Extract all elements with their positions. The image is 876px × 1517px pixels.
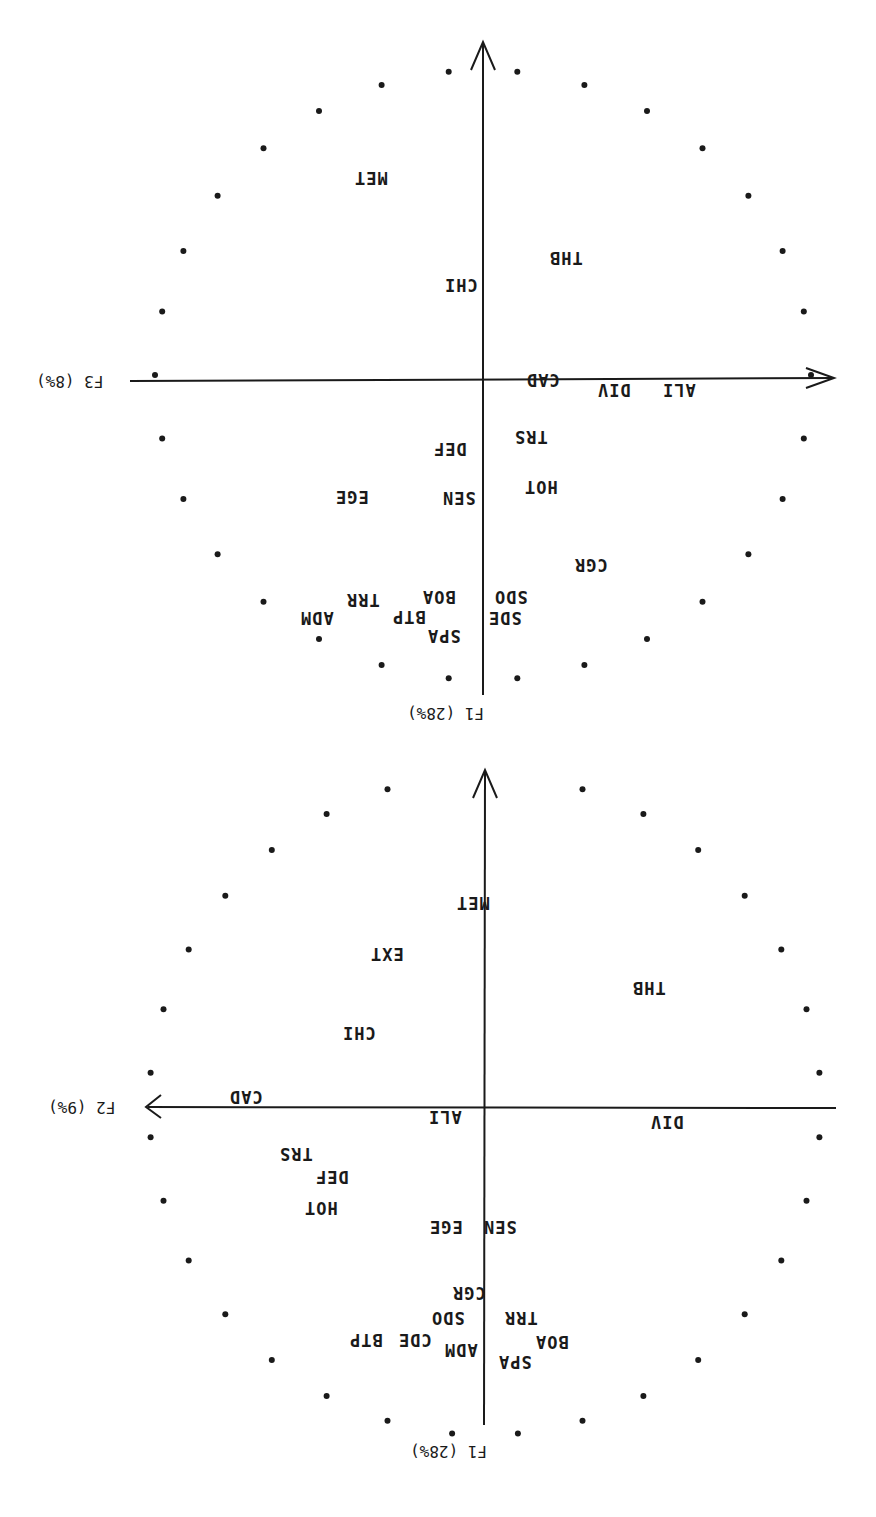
circle-dot [385, 786, 391, 792]
variable-label: TRS [279, 1145, 313, 1162]
figure-page: METCHITHBCADDIVALITRSDEFHOTSENEGECGRSDOS… [0, 0, 876, 1517]
circle-dot [161, 1006, 167, 1012]
variable-label: EXT [370, 945, 404, 962]
variable-label: SEN [442, 489, 476, 506]
circle-dot [816, 1134, 822, 1140]
bottom-x-axis-label: F2 (9%) [48, 1099, 115, 1115]
circle-dot [180, 496, 186, 502]
circle-dot [446, 69, 452, 75]
circle-dot [640, 811, 646, 817]
circle-dot [316, 636, 322, 642]
circle-dot [640, 1393, 646, 1399]
circle-dot [316, 108, 322, 114]
circle-dot [215, 193, 221, 199]
circle-dot [644, 636, 650, 642]
bottom-f2-axis [148, 1107, 836, 1108]
variable-label: BTP [392, 608, 426, 625]
circle-dot [152, 372, 158, 378]
circle-dot [379, 82, 385, 88]
circle-dot [222, 1311, 228, 1317]
circle-dot [514, 69, 520, 75]
variable-label: SPA [427, 627, 461, 644]
variable-label: ALI [662, 381, 696, 398]
circle-dot [261, 145, 267, 151]
variable-label: ALI [428, 1108, 462, 1125]
circle-dot [644, 108, 650, 114]
circle-dot [186, 946, 192, 952]
circle-dot [269, 847, 275, 853]
variable-label: EGE [429, 1218, 463, 1235]
variable-label: THB [632, 979, 666, 996]
variable-label: BOA [422, 588, 456, 605]
circle-dot [700, 145, 706, 151]
variable-label: SEN [483, 1218, 517, 1235]
circle-dot [159, 309, 165, 315]
circle-dot [324, 1393, 330, 1399]
circle-dot [801, 309, 807, 315]
correlation-circles-svg [0, 0, 876, 1517]
variable-label: TRR [504, 1309, 538, 1326]
variable-label: MET [354, 169, 388, 186]
circle-dot [261, 599, 267, 605]
circle-dot [215, 551, 221, 557]
variable-label: DEF [315, 1168, 349, 1185]
variable-label: DEF [433, 440, 467, 457]
circle-dot [778, 946, 784, 952]
circle-dot [742, 1311, 748, 1317]
circle-dot [580, 786, 586, 792]
variable-label: HOT [524, 478, 558, 495]
circle-dot [446, 675, 452, 681]
variable-label: CAD [229, 1088, 263, 1105]
top-x-axis-label: F3 (8%) [36, 373, 103, 389]
variable-label: DIV [650, 1113, 684, 1130]
circle-dot [804, 1006, 810, 1012]
circle-dot [379, 662, 385, 668]
variable-label: SDO [431, 1309, 465, 1326]
variable-label: CHI [342, 1024, 376, 1041]
circle-dot [778, 1258, 784, 1264]
circle-dot [808, 372, 814, 378]
circle-dot [324, 811, 330, 817]
circle-dot [449, 1430, 455, 1436]
circle-dot [269, 1357, 275, 1363]
circle-dot [804, 1198, 810, 1204]
variable-label: EGE [335, 488, 369, 505]
bottom-f1-axis [484, 770, 485, 1425]
circle-dot [180, 248, 186, 254]
circle-dot [161, 1198, 167, 1204]
circle-dot [186, 1258, 192, 1264]
variable-label: CGR [452, 1284, 486, 1301]
circle-dot [742, 893, 748, 899]
variable-label: MET [456, 894, 490, 911]
variable-label: ADM [300, 609, 334, 626]
circle-dot [148, 1070, 154, 1076]
variable-label: SDO [494, 588, 528, 605]
circle-dot [148, 1134, 154, 1140]
circle-dot [780, 248, 786, 254]
circle-dot [695, 1357, 701, 1363]
variable-label: BTP [349, 1331, 383, 1348]
circle-dot [159, 435, 165, 441]
variable-label: BOA [535, 1333, 569, 1350]
top-y-axis-label: F1 (28%) [407, 705, 484, 721]
circle-dot [745, 551, 751, 557]
variable-label: SPA [498, 1353, 532, 1370]
circle-dot [745, 193, 751, 199]
circle-dot [222, 893, 228, 899]
variable-label: CDE [398, 1331, 432, 1348]
bottom-y-axis-label: F1 (28%) [410, 1443, 487, 1459]
circle-dot [780, 496, 786, 502]
circle-dot [801, 435, 807, 441]
variable-label: THB [549, 249, 583, 266]
variable-label: TRR [346, 591, 380, 608]
circle-dot [581, 662, 587, 668]
circle-dot [695, 847, 701, 853]
variable-label: CAD [526, 371, 560, 388]
circle-dot [385, 1418, 391, 1424]
variable-label: DIV [597, 381, 631, 398]
circle-dot [581, 82, 587, 88]
circle-dot [580, 1418, 586, 1424]
variable-label: TRS [514, 428, 548, 445]
circle-dot [816, 1070, 822, 1076]
variable-label: ADM [444, 1341, 478, 1358]
